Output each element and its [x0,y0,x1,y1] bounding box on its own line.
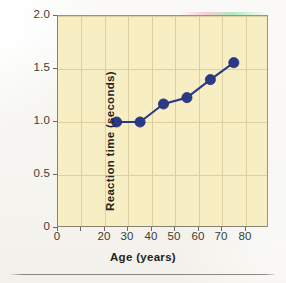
plot-inner [58,16,267,226]
y-axis-tick [53,121,57,122]
reaction-time-line-chart: 00.51.01.52.0 01020304050607080 Reaction… [0,0,286,283]
y-axis-tick-label: 0.5 [10,167,50,179]
y-axis-tick [53,15,57,16]
data-point-marker [229,58,239,68]
x-axis-tick-label: 80 [232,230,258,242]
footer-divider [11,274,275,275]
x-axis-tick-label: 70 [208,230,234,242]
y-axis-tick [53,174,57,175]
x-axis-tick-label: 30 [114,230,140,242]
y-axis-title: Reaction time (seconds) [104,56,116,226]
plot-area [57,15,268,227]
y-axis-tick-label: 1.5 [10,61,50,73]
data-point-marker [135,117,145,127]
x-axis-tick-label: 50 [161,230,187,242]
data-point-marker [158,99,168,109]
data-point-marker [205,75,215,85]
x-axis-tick-label: 0 [44,230,70,242]
series-layer [58,16,267,226]
series-line [117,63,234,122]
data-point-marker [182,93,192,103]
y-axis-tick [53,68,57,69]
y-axis-tick-label: 2.0 [10,8,50,20]
series-markers [112,58,239,128]
x-axis-tick [80,227,81,231]
y-axis-tick-label: 1.0 [10,114,50,126]
x-axis-title: Age (years) [0,251,286,263]
